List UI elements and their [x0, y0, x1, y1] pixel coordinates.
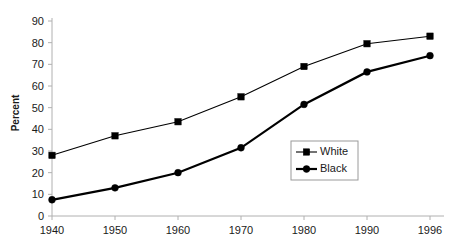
chart-background — [0, 0, 451, 251]
legend-marker-black — [303, 166, 310, 173]
chart-canvas: 0102030405060708090 19401950196019701980… — [0, 0, 451, 251]
data-point-white — [49, 152, 55, 158]
x-tick-label: 1970 — [229, 224, 253, 236]
x-tick-label: 1980 — [292, 224, 316, 236]
x-tick-label: 1950 — [103, 224, 127, 236]
data-point-black — [238, 144, 245, 151]
chart-legend: WhiteBlack — [291, 141, 358, 180]
x-tick-label: 1960 — [166, 224, 190, 236]
y-tick-label: 70 — [32, 58, 44, 70]
data-point-white — [427, 33, 433, 39]
legend-marker-white — [303, 149, 309, 155]
data-point-black — [175, 169, 182, 176]
data-point-black — [427, 52, 434, 59]
data-point-white — [364, 41, 370, 47]
y-tick-label: 80 — [32, 37, 44, 49]
y-tick-label: 50 — [32, 102, 44, 114]
data-point-black — [301, 101, 308, 108]
legend-label-black: Black — [320, 162, 347, 174]
data-point-white — [301, 63, 307, 69]
y-tick-label: 20 — [32, 167, 44, 179]
y-tick-label: 10 — [32, 188, 44, 200]
data-point-white — [175, 119, 181, 125]
legend-label-white: White — [320, 145, 348, 157]
y-tick-label: 30 — [32, 145, 44, 157]
x-tick-label: 1996 — [418, 224, 442, 236]
y-axis-title: Percent — [10, 94, 21, 131]
y-tick-label: 0 — [38, 210, 44, 222]
data-point-black — [112, 184, 119, 191]
line-chart: 0102030405060708090 19401950196019701980… — [0, 0, 451, 251]
data-point-black — [364, 69, 371, 76]
x-tick-label: 1990 — [355, 224, 379, 236]
data-point-white — [238, 94, 244, 100]
y-tick-label: 60 — [32, 80, 44, 92]
x-tick-label: 1940 — [40, 224, 64, 236]
data-point-white — [112, 133, 118, 139]
y-tick-label: 90 — [32, 15, 44, 27]
y-tick-label: 40 — [32, 123, 44, 135]
data-point-black — [49, 196, 56, 203]
